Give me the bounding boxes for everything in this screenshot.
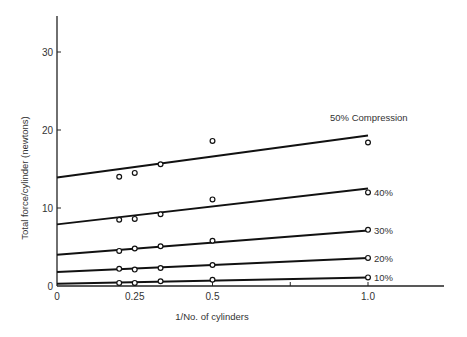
data-point [132,171,137,176]
y-tick-label: 30 [42,47,54,58]
series-label: 20% [374,253,394,264]
series-label: 30% [374,225,394,236]
chart: 010203000.250.51.0 50% Compression40%30%… [0,0,467,337]
data-point [158,279,163,284]
fit-line [57,189,368,225]
x-tick-label: 0 [54,291,60,302]
data-point [132,246,137,251]
data-point [117,249,122,254]
data-point [158,266,163,271]
y-axis-title: Total force/cylinder (newtons) [19,116,30,240]
data-point [210,263,215,268]
x-tick-label: 0.25 [125,291,145,302]
y-tick-label: 10 [42,203,54,214]
fit-lines [57,135,368,283]
series-label: 40% [374,187,394,198]
x-axis-title: 1/No. of cylinders [175,311,249,322]
data-point [366,227,371,232]
data-point [210,139,215,144]
data-point [158,244,163,249]
data-point [366,256,371,261]
data-point [158,212,163,217]
data-point [210,277,215,282]
y-tick-label: 20 [42,125,54,136]
data-point [117,280,122,285]
data-point [132,280,137,285]
x-tick-label: 1.0 [361,291,375,302]
series-label: 50% Compression [330,112,408,123]
series-label: 10% [374,272,394,283]
data-point [117,174,122,179]
x-tick-label: 0.5 [206,291,220,302]
data-point [210,238,215,243]
data-point [132,267,137,272]
y-tick-label: 0 [47,281,53,292]
data-point [210,197,215,202]
data-point [132,217,137,222]
data-point [117,266,122,271]
data-point [366,190,371,195]
data-point [366,275,371,280]
data-point [158,162,163,167]
data-point [366,140,371,145]
data-point [117,217,122,222]
